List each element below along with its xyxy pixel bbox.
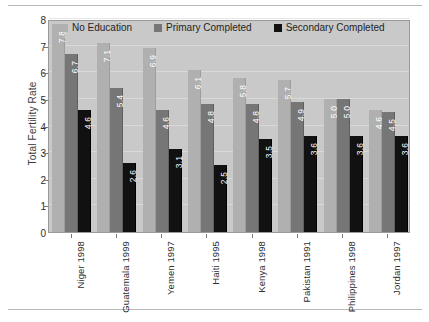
bar-value-label: 7.1 <box>103 50 112 62</box>
bar-value-label: 5.8 <box>239 84 248 96</box>
bar[interactable]: 6.1 <box>188 70 201 232</box>
page-rule-top <box>8 5 422 6</box>
x-axis-tick-mark <box>252 234 253 238</box>
bar[interactable]: 4.8 <box>201 104 214 232</box>
bar[interactable]: 2.6 <box>123 163 136 232</box>
bar[interactable]: 5.0 <box>337 99 350 232</box>
bar-value-label: 3.6 <box>401 143 410 155</box>
legend-item[interactable]: Primary Completed <box>154 22 252 33</box>
bar[interactable]: 3.6 <box>350 136 363 232</box>
bar-value-label: 2.5 <box>220 172 229 184</box>
bar[interactable]: 3.5 <box>259 139 272 232</box>
legend-label: Primary Completed <box>166 22 252 33</box>
x-axis-tick-label: Guatemala 1999 <box>120 241 131 313</box>
bar-value-label: 4.9 <box>297 108 306 120</box>
bar[interactable]: 4.6 <box>156 110 169 232</box>
bar[interactable]: 6.7 <box>65 54 78 232</box>
x-axis-tick-label: Haiti 1995 <box>210 241 221 285</box>
bar-group: 6.14.82.5 <box>188 21 227 232</box>
y-axis-tick-mark <box>43 180 48 181</box>
bar-value-label: 5.0 <box>343 106 352 118</box>
bar[interactable]: 4.8 <box>246 104 259 232</box>
bar-value-label: 3.1 <box>175 156 184 168</box>
bar[interactable]: 2.5 <box>214 165 227 232</box>
y-axis-tick-mark <box>43 127 48 128</box>
y-axis-tick-mark <box>43 206 48 207</box>
x-axis-tick-label: Yemen 1997 <box>165 241 176 295</box>
bar[interactable]: 5.4 <box>110 88 123 232</box>
legend-swatch-icon <box>274 24 282 32</box>
bar[interactable]: 5.7 <box>278 80 291 232</box>
bar-group: 7.15.42.6 <box>97 21 136 232</box>
bar-group: 5.05.03.6 <box>324 21 363 232</box>
y-axis-tick-mark <box>43 47 48 48</box>
gridline <box>49 18 409 19</box>
x-axis-tick-mark <box>387 234 388 238</box>
bar[interactable]: 4.9 <box>291 102 304 232</box>
bar-value-label: 5.4 <box>116 95 125 107</box>
x-axis-tick-mark <box>161 234 162 238</box>
bar[interactable]: 4.6 <box>369 110 382 232</box>
bar-value-label: 6.7 <box>71 60 80 72</box>
bar-group: 6.94.63.1 <box>143 21 182 232</box>
x-axis-tick-mark <box>342 234 343 238</box>
bar[interactable]: 4.6 <box>78 110 91 232</box>
bar-value-label: 4.8 <box>207 111 216 123</box>
legend-item[interactable]: Secondary Completed <box>274 22 385 33</box>
x-axis-tick-label: Philippines 1998 <box>346 241 357 312</box>
y-axis-tick-mark <box>43 153 48 154</box>
bar[interactable]: 7.1 <box>97 43 110 232</box>
y-axis-tick-label: 0 <box>24 228 46 239</box>
x-axis-tick-label: Jordan 1997 <box>391 241 402 295</box>
bar[interactable]: 3.6 <box>395 136 408 232</box>
bar[interactable]: 3.1 <box>169 149 182 232</box>
x-axis-tick-mark <box>206 234 207 238</box>
bar-value-label: 2.6 <box>129 170 138 182</box>
bar-value-label: 6.9 <box>149 55 158 67</box>
x-axis-tick-label: Pakistan 1991 <box>301 241 312 303</box>
bar[interactable]: 4.5 <box>382 112 395 232</box>
bar-value-label: 4.6 <box>162 116 171 128</box>
x-axis-tick-label: Niger 1998 <box>75 241 86 288</box>
y-axis-tick-label: 8 <box>24 15 46 26</box>
bar-value-label: 3.6 <box>356 143 365 155</box>
bar-group: 5.84.83.5 <box>233 21 272 232</box>
bar[interactable]: 5.8 <box>233 78 246 232</box>
bar-value-label: 3.5 <box>265 146 274 158</box>
bar-value-label: 5.7 <box>284 87 293 99</box>
x-axis-labels: Niger 1998Guatemala 1999Yemen 1997Haiti … <box>48 234 410 316</box>
legend-swatch-icon <box>60 24 68 32</box>
plot-area: 7.86.74.67.15.42.66.94.63.16.14.82.55.84… <box>48 20 410 233</box>
x-axis-tick-label: Kenya 1998 <box>256 241 267 293</box>
bar[interactable]: 5.0 <box>324 99 337 232</box>
bar-value-label: 4.8 <box>252 111 261 123</box>
bar-group: 7.86.74.6 <box>52 21 91 232</box>
y-axis-tick-mark <box>43 100 48 101</box>
plot-inner: 7.86.74.67.15.42.66.94.63.16.14.82.55.84… <box>49 21 409 232</box>
legend-label: Secondary Completed <box>286 22 385 33</box>
y-axis-tick-mark <box>43 73 48 74</box>
bar-value-label: 4.6 <box>84 116 93 128</box>
bar-value-label: 3.6 <box>310 143 319 155</box>
bar[interactable]: 6.9 <box>143 48 156 232</box>
legend-swatch-icon <box>154 24 162 32</box>
x-axis-tick-mark <box>297 234 298 238</box>
bar-value-label: 6.1 <box>194 76 203 88</box>
bar-group: 5.74.93.6 <box>278 21 317 232</box>
bar-value-label: 4.5 <box>388 119 397 131</box>
bar[interactable]: 3.6 <box>304 136 317 232</box>
bar[interactable]: 7.8 <box>52 24 65 232</box>
legend-label: No Education <box>72 22 132 33</box>
x-axis-tick-mark <box>116 234 117 238</box>
legend-item[interactable]: No Education <box>60 22 132 33</box>
x-axis-tick-mark <box>71 234 72 238</box>
bar-group: 4.64.53.6 <box>369 21 408 232</box>
legend: No EducationPrimary CompletedSecondary C… <box>60 21 385 34</box>
figure: Total Fertility Rate 7.86.74.67.15.42.66… <box>0 0 429 322</box>
